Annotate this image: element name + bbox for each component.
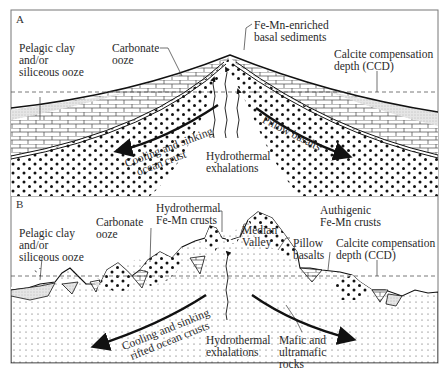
- panel-a-label-carbonate: Carbonate ooze: [112, 42, 159, 66]
- panel-a-letter: A: [16, 13, 24, 25]
- panel-a-label-ccd: Calcite compensation depth (CCD): [334, 48, 433, 72]
- panel-b-label-ccd: Calcite compensation depth (CCD): [336, 237, 435, 261]
- panel-b-label-hydrothermal-crusts: Hydrothermal Fe-Mn crusts: [156, 202, 221, 226]
- seafloor-diagram-figure: A Pelagic clay and/or siliceous ooze Car…: [0, 0, 447, 369]
- panel-b-letter: B: [16, 198, 23, 210]
- panel-b-label-carbonate: Carbonate ooze: [96, 216, 143, 240]
- panel-b-label-mafic: Mafic and ultramafic rocks: [279, 334, 326, 369]
- panel-b-label-pillow-basalts: Pillow basalts: [293, 237, 324, 261]
- panel-b-label-authigenic: Authigenic Fe-Mn crusts: [320, 204, 381, 228]
- panel-b-label-median-valley: Median Valley: [242, 224, 277, 248]
- panel-a-label-pelagic: Pelagic clay and/or siliceous ooze: [19, 42, 84, 78]
- panel-a-label-femn-basal: Fe-Mn-enriched basal sediments: [254, 19, 329, 43]
- panel-b-label-pelagic: Pelagic clay and/or siliceous ooze: [19, 227, 84, 263]
- panel-a-label-hydrothermal: Hydrothermal exhalations: [206, 150, 271, 174]
- panel-b-label-hydrothermal: Hydrothermal exhalations: [206, 334, 271, 358]
